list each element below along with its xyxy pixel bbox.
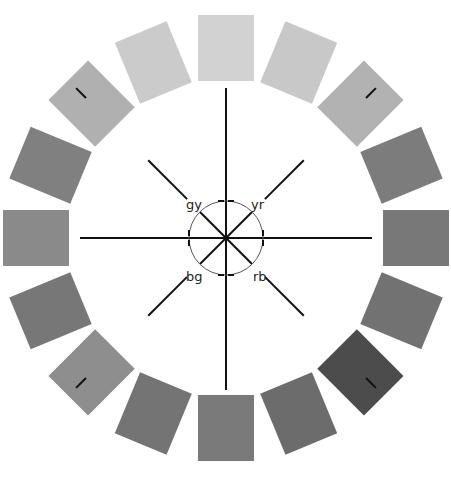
color-swatch (198, 15, 254, 81)
color-swatch (198, 395, 254, 461)
color-swatch (48, 60, 134, 146)
color-swatch (317, 60, 403, 146)
color-swatch (317, 329, 403, 415)
color-swatch (115, 21, 192, 103)
color-swatch (360, 127, 442, 204)
label-yr: yr (251, 198, 264, 211)
color-swatch (48, 329, 134, 415)
diagonal-segment (265, 277, 304, 316)
diagonal-segment (148, 277, 187, 316)
label-gy: gy (186, 198, 202, 211)
diagram-canvas (0, 0, 451, 477)
color-swatch (260, 21, 337, 103)
diagonal-segment (265, 160, 304, 199)
diagonal-segment (148, 160, 187, 199)
color-swatch (260, 372, 337, 454)
color-circle-diagram: gy yr bg rb (0, 0, 451, 477)
color-swatch (9, 127, 91, 204)
label-bg: bg (186, 270, 203, 283)
color-swatch (360, 272, 442, 349)
label-rb: rb (253, 270, 267, 283)
color-swatch (3, 210, 69, 266)
color-swatch (115, 372, 192, 454)
color-swatch (383, 210, 449, 266)
color-swatch (9, 272, 91, 349)
